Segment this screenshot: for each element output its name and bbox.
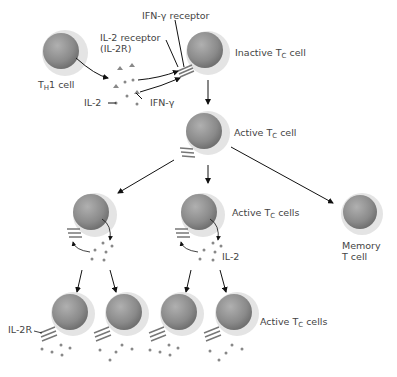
il2-mid-label: IL-2 (222, 251, 239, 262)
active-tc-cell-center-icon (175, 193, 225, 262)
diagram-canvas (0, 0, 397, 377)
memory-t-cell-icon (341, 193, 383, 235)
memory-t-cell-label: MemoryT cell (342, 240, 381, 262)
th1-cell-label: TH1 cell (38, 79, 75, 94)
il2r-bottom-label: IL-2R (8, 324, 32, 335)
active-tc-cell-icon (180, 111, 230, 157)
il2-receptor-label: IL-2 receptor(IL-2R) (100, 32, 161, 54)
ifn-receptor-label: IFN-γ receptor (142, 10, 210, 21)
th1-cell-icon (42, 30, 88, 76)
inactive-tc-label: Inactive TC cell (235, 47, 306, 62)
active-tc-label: Active TC cell (234, 127, 296, 142)
active-tc-cells-bottom-label: Active TC cells (260, 316, 327, 331)
active-tc-cell-left-icon (67, 193, 117, 262)
il2-label: IL-2 (84, 97, 101, 108)
cytokine-dots-top (113, 63, 140, 106)
active-tc-cells-bottom-icon (34, 292, 259, 362)
active-tc-cells-mid-label: Active TC cells (232, 207, 299, 222)
inactive-tc-cell-icon (178, 31, 230, 77)
ifn-gamma-label: IFN-γ (150, 97, 174, 108)
